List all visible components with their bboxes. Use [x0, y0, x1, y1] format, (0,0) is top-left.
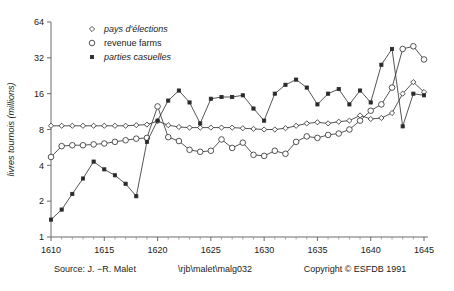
data-point	[390, 47, 393, 50]
data-point	[262, 127, 267, 132]
data-point	[294, 123, 299, 128]
data-point	[60, 208, 63, 211]
y-tick-label: 4	[39, 161, 44, 171]
data-point	[241, 94, 244, 97]
legend-item-3: parties casuelles	[90, 52, 171, 62]
data-point	[123, 123, 128, 128]
data-point	[91, 142, 97, 148]
data-point	[263, 119, 266, 122]
x-tick-label: 1645	[414, 245, 434, 255]
data-point	[348, 103, 351, 106]
legend-marker-diamond	[89, 26, 94, 31]
data-point	[112, 139, 118, 145]
data-point	[293, 139, 299, 145]
data-point	[304, 134, 310, 140]
data-point	[145, 140, 148, 143]
data-point	[208, 125, 213, 130]
x-tick-label: 1640	[361, 245, 381, 255]
data-point	[389, 85, 395, 91]
data-point	[177, 89, 180, 92]
data-point	[325, 121, 330, 126]
legend-marker-star	[90, 55, 93, 58]
legend-label: parties casuelles	[103, 52, 172, 62]
data-point	[59, 143, 65, 149]
series-line	[51, 49, 424, 220]
data-point	[316, 103, 319, 106]
data-point	[70, 142, 76, 148]
data-point	[231, 95, 234, 98]
data-point	[304, 121, 309, 126]
footer-copyright: Copyright © ESFDB 1991	[304, 264, 407, 274]
y-tick-label: 64	[34, 17, 44, 27]
data-point	[208, 148, 214, 154]
data-point	[219, 125, 224, 130]
y-tick-label: 8	[39, 125, 44, 135]
data-point	[305, 86, 308, 89]
legend-item-2: revenue farms	[89, 38, 162, 48]
data-point	[389, 110, 394, 115]
data-point	[59, 123, 64, 128]
chart-canvas: 1248163264161016151620162516301635164016…	[0, 0, 454, 291]
x-tick-label: 1620	[148, 245, 168, 255]
data-point	[295, 78, 298, 81]
data-point	[103, 168, 106, 171]
data-point	[80, 142, 86, 148]
data-point	[70, 123, 75, 128]
data-point	[272, 148, 278, 154]
data-point	[337, 87, 340, 90]
data-point	[219, 137, 225, 143]
data-point	[91, 123, 96, 128]
data-point	[102, 123, 107, 128]
data-point	[134, 123, 139, 128]
legend-label: revenue farms	[104, 38, 162, 48]
data-point	[272, 127, 277, 132]
chart-figure: 1248163264161016151620162516301635164016…	[0, 0, 454, 291]
data-point	[411, 43, 417, 49]
x-tick-label: 1625	[201, 245, 221, 255]
legend-item-1: pays d'élections	[89, 24, 168, 34]
data-point	[422, 94, 425, 97]
series-line	[51, 82, 424, 129]
series-line	[51, 46, 424, 157]
data-point	[240, 126, 245, 131]
data-point	[135, 195, 138, 198]
data-point	[379, 102, 385, 108]
data-point	[401, 125, 404, 128]
y-tick-label: 32	[34, 53, 44, 63]
data-point	[315, 120, 320, 125]
legend-marker-circle	[89, 40, 95, 46]
data-point	[368, 116, 373, 121]
data-point	[92, 160, 95, 163]
data-point	[347, 127, 353, 133]
data-point	[187, 125, 192, 130]
footer-source: Source: J. −R. Malet	[54, 264, 136, 274]
data-point	[123, 137, 129, 143]
y-tick-label: 2	[39, 196, 44, 206]
data-point	[188, 101, 191, 104]
data-point	[412, 92, 415, 95]
data-point	[144, 122, 149, 127]
data-point	[357, 113, 362, 118]
data-point	[326, 92, 329, 95]
data-point	[252, 107, 255, 110]
data-point	[166, 123, 171, 128]
data-point	[284, 83, 287, 86]
y-axis-label: livres tournois (millions)	[6, 82, 16, 176]
data-point	[81, 177, 84, 180]
data-point	[379, 115, 384, 120]
data-point	[155, 104, 161, 110]
data-point	[315, 135, 321, 141]
data-point	[347, 118, 352, 123]
data-point	[421, 57, 427, 63]
data-point	[261, 153, 267, 159]
data-point	[197, 149, 203, 155]
y-tick-label: 16	[34, 89, 44, 99]
data-point	[48, 123, 53, 128]
series-3	[49, 47, 425, 221]
data-point	[400, 46, 406, 52]
data-point	[165, 134, 171, 140]
data-point	[124, 182, 127, 185]
data-point	[220, 95, 223, 98]
series-1	[48, 80, 426, 133]
data-point	[49, 218, 52, 221]
